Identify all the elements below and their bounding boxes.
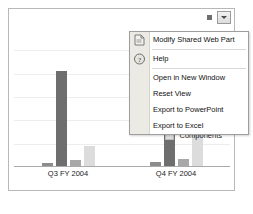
menu-indicator-dot xyxy=(207,15,212,20)
web-part-context-menu[interactable]: Modify Shared Web Part?HelpOpen in New W… xyxy=(129,31,249,135)
menu-item-label: Modify Shared Web Part xyxy=(153,36,235,44)
chart-bar xyxy=(42,163,53,166)
menu-item-label: Export to PowerPoint xyxy=(153,106,223,114)
menu-separator xyxy=(152,68,246,69)
chart-bar xyxy=(56,71,67,166)
modify-webpart-icon xyxy=(133,34,146,46)
web-part-menu-button[interactable] xyxy=(217,11,231,24)
menu-item[interactable]: ?Help xyxy=(130,51,248,67)
svg-text:?: ? xyxy=(138,56,141,64)
x-axis-label: Q4 FY 2004 xyxy=(122,169,230,178)
menu-item[interactable]: Modify Shared Web Part xyxy=(130,32,248,48)
menu-item-label: Open in New Window xyxy=(153,74,225,82)
menu-item[interactable]: Open in New Window xyxy=(130,70,248,86)
menu-item[interactable]: Export to Excel xyxy=(130,118,248,134)
help-icon: ? xyxy=(133,53,146,65)
menu-item-label: Reset View xyxy=(153,90,191,98)
menu-item[interactable]: Reset View xyxy=(130,86,248,102)
chart-bar xyxy=(84,146,95,166)
menu-item-label: Help xyxy=(153,55,168,63)
x-axis-line xyxy=(14,166,230,167)
chart-bar xyxy=(70,160,81,166)
menu-separator xyxy=(152,49,246,50)
menu-item[interactable]: Export to PowerPoint xyxy=(130,102,248,118)
chart-bar xyxy=(150,162,161,166)
menu-item-label: Export to Excel xyxy=(153,122,203,130)
chart-bar xyxy=(178,159,189,166)
chevron-down-icon xyxy=(221,16,227,19)
web-part-titlebar xyxy=(9,9,234,26)
web-part-container: Q3 FY 2004Q4 FY 2004 Components Modify S… xyxy=(8,8,235,191)
x-axis-labels: Q3 FY 2004Q4 FY 2004 xyxy=(14,169,230,183)
x-axis-label: Q3 FY 2004 xyxy=(14,169,122,178)
